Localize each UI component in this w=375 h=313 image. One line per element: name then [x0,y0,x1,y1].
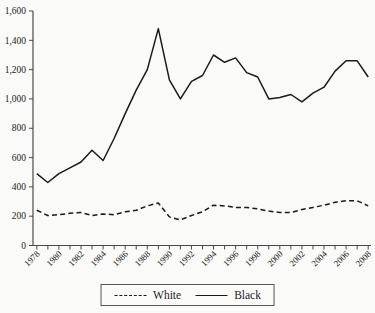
legend: White Black [100,284,275,306]
x-tick-label: 2004 [309,248,329,268]
legend-item-black: Black [195,289,261,301]
legend-label-black: Black [234,289,261,301]
chart-figure: 02004006008001,0001,2001,4001,6001978198… [0,0,375,313]
y-tick-label: 1,200 [5,65,27,75]
x-tick-label: 1996 [221,248,241,268]
y-tick-label: 1,000 [5,94,27,104]
y-tick-label: 800 [12,123,27,133]
solid-line-sample [195,295,227,296]
x-tick-label: 1990 [155,248,175,268]
legend-label-white: White [153,289,181,301]
y-tick-label: 0 [21,241,26,251]
x-tick-label: 1994 [199,248,219,268]
x-tick-label: 1984 [88,248,108,268]
x-tick-label: 1982 [66,249,86,269]
y-tick-label: 1,400 [5,36,27,46]
legend-item-white: White [114,289,181,301]
x-tick-label: 2002 [287,249,307,269]
x-tick-label: 1998 [243,248,263,268]
x-tick-label: 2006 [332,248,352,268]
dashed-line-sample [114,295,146,296]
x-tick-label: 1980 [44,248,64,268]
x-tick-label: 1992 [177,249,197,269]
x-tick-label: 1988 [133,248,153,268]
series-line-black [37,29,368,183]
x-tick-label: 1986 [111,248,131,268]
y-tick-label: 600 [12,153,27,163]
y-tick-label: 400 [12,182,27,192]
series-line-white [37,201,368,220]
x-tick-label: 2000 [265,248,285,268]
y-tick-label: 1,600 [5,6,27,16]
x-tick-label: 2008 [354,248,374,268]
x-tick-label: 1978 [22,248,42,268]
line-chart-plot: 02004006008001,0001,2001,4001,6001978198… [0,0,375,313]
y-tick-label: 200 [12,211,27,221]
